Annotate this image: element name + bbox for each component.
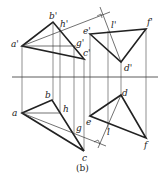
descriptive-geometry-diagram: a' b' h' g' c' e' l' f' d' a b h g c e d… [0, 0, 168, 184]
label-g: g [76, 123, 82, 133]
figure-caption: (b) [76, 163, 89, 173]
label-f: f [143, 140, 149, 150]
label-b: b [45, 90, 51, 100]
label-a: a [12, 108, 17, 118]
label-h-prime: h' [60, 19, 68, 29]
triangle-def-front [90, 29, 146, 62]
label-h: h [63, 104, 69, 114]
label-b-prime: b' [49, 11, 57, 21]
label-d-prime: d' [124, 63, 132, 73]
label-g-prime: g' [76, 38, 84, 48]
label-e: e [86, 117, 91, 127]
label-l: l [107, 127, 110, 137]
label-f-prime: f' [146, 17, 153, 27]
label-a-prime: a' [11, 39, 19, 49]
label-l-prime: l' [111, 20, 116, 30]
label-e-prime: e' [83, 26, 91, 36]
label-c: c [82, 153, 87, 163]
label-d: d [122, 88, 128, 98]
label-c-prime: c' [83, 48, 91, 58]
perpendicular-line-front [100, 7, 121, 62]
